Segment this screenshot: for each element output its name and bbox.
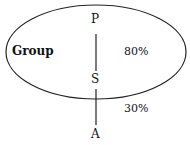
outside-percentage: 30% bbox=[124, 103, 148, 114]
node-p: P bbox=[91, 13, 99, 25]
group-label: Group bbox=[12, 45, 54, 57]
inside-percentage: 80% bbox=[124, 46, 148, 57]
node-s: S bbox=[91, 73, 99, 85]
venn-diagram: Group P S A 80% 30% bbox=[0, 0, 190, 145]
node-a: A bbox=[91, 128, 100, 140]
